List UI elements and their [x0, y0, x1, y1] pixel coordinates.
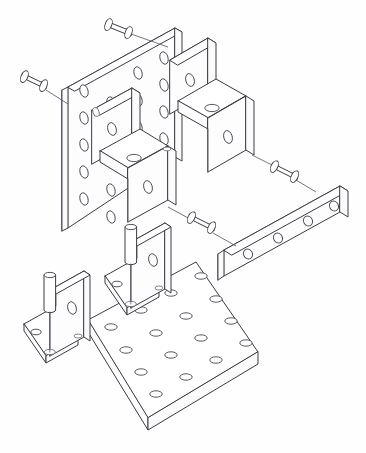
part-u-bracket-right — [170, 38, 254, 172]
part-flat-bar — [218, 186, 348, 280]
part-l-bracket-left — [24, 271, 90, 363]
fastener-pin-bar — [252, 155, 316, 192]
fastener-pin-left — [19, 70, 68, 104]
fastener-pin-mid-right — [168, 207, 236, 246]
drawing-canvas: Isometric Exploded Assembly — [0, 0, 366, 453]
isometric-exploded-assembly-svg — [0, 0, 366, 453]
